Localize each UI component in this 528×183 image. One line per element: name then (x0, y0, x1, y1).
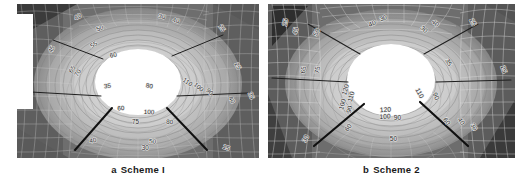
contour-label: 50 (390, 135, 398, 142)
caption-scheme-1: aScheme I (17, 164, 259, 175)
contour-svg-b: 3040403025254550356575251201101009011090… (268, 4, 515, 158)
caption-label-b: Scheme 2 (373, 164, 420, 175)
contour-plot-a: 4050304025455560657030253580110100903560… (17, 4, 259, 158)
contour-label: 100 (379, 113, 391, 120)
contour-label: 80 (166, 118, 174, 126)
contour-label: 90 (394, 114, 402, 121)
caption-label-a: Scheme I (121, 164, 165, 175)
panel-a-left-notch (17, 14, 33, 109)
contour-label: 100 (144, 108, 155, 115)
contour-svg-a: 4050304025455560657030253580110100903560… (17, 4, 259, 158)
figure-container: 4050304025455560657030253580110100903560… (0, 0, 528, 183)
contour-plot-b: 3040403025254550356575251201101009011090… (268, 4, 515, 158)
caption-letter-b: b (363, 164, 369, 175)
panel-scheme-2: 3040403025254550356575251201101009011090… (268, 4, 515, 158)
contour-label: 65 (299, 65, 307, 74)
caption-scheme-2: bScheme 2 (268, 164, 515, 175)
panel-scheme-1: 4050304025455560657030253580110100903560… (17, 4, 259, 158)
contour-label: 75 (313, 65, 321, 74)
tunnel-opening-b (347, 44, 435, 116)
contour-label: 75 (132, 118, 140, 125)
contour-label: 30 (142, 144, 150, 151)
caption-letter-a: a (111, 164, 117, 175)
contour-label: 50 (149, 137, 157, 144)
contour-label: 60 (117, 104, 125, 112)
